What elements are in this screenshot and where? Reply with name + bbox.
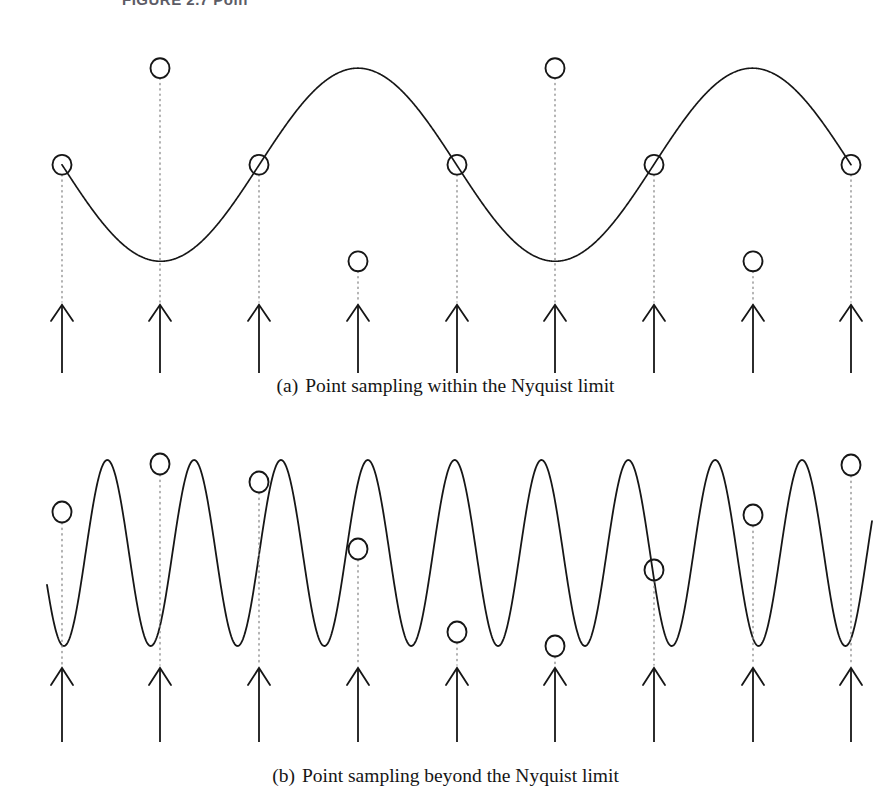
sampling-impulse-arrow xyxy=(149,668,171,742)
panel-b-svg xyxy=(0,420,891,760)
panel-b-caption-tag: (b) xyxy=(272,765,295,786)
sample-point-marker xyxy=(250,155,269,175)
sample-point-marker xyxy=(151,58,170,78)
sample-point-marker xyxy=(53,502,72,523)
sample-point-marker xyxy=(250,472,269,493)
sample-point-marker xyxy=(349,251,368,271)
panel-b-caption-text: Point sampling beyond the Nyquist limit xyxy=(302,765,619,786)
panel-a-svg xyxy=(0,18,891,373)
panel-a-caption-text: Point sampling within the Nyquist limit xyxy=(305,375,614,396)
panel-a-within-nyquist: (a)Point sampling within the Nyquist lim… xyxy=(0,18,891,393)
clipped-figure-header-text: FIGURE 2.7 Poin xyxy=(122,0,248,8)
panel-a-caption: (a)Point sampling within the Nyquist lim… xyxy=(0,375,891,397)
sample-point-marker xyxy=(546,58,565,78)
sampling-impulse-arrow xyxy=(742,305,764,373)
sampling-impulse-arrow xyxy=(347,305,369,373)
panel-a-plot xyxy=(0,18,891,373)
waveform-curve xyxy=(47,460,872,646)
sample-point-marker xyxy=(842,455,861,476)
sampling-impulse-arrow xyxy=(149,305,171,373)
sampling-impulse-arrow xyxy=(446,305,468,373)
sampling-impulse-arrow xyxy=(248,668,270,742)
sampling-impulse-arrow xyxy=(347,668,369,742)
sample-point-marker xyxy=(744,251,763,271)
sampling-impulse-arrow xyxy=(248,305,270,373)
panel-b-beyond-nyquist: (b)Point sampling beyond the Nyquist lim… xyxy=(0,420,891,800)
sample-point-marker xyxy=(842,155,861,175)
sample-point-marker xyxy=(448,155,467,175)
panel-a-caption-tag: (a) xyxy=(277,375,299,396)
sample-point-marker xyxy=(349,539,368,560)
sample-point-marker xyxy=(645,560,664,581)
sampling-impulse-arrow xyxy=(544,305,566,373)
sampling-impulse-arrow xyxy=(643,668,665,742)
panel-b-plot xyxy=(0,420,891,760)
sampling-impulse-arrow xyxy=(544,668,566,742)
sample-point-marker xyxy=(744,505,763,526)
sample-point-marker xyxy=(645,155,664,175)
sampling-impulse-arrow xyxy=(643,305,665,373)
sampling-impulse-arrow xyxy=(742,668,764,742)
figure-nyquist-sampling: FIGURE 2.7 Poin (a)Point sampling within… xyxy=(0,0,891,808)
clipped-figure-header: FIGURE 2.7 Poin xyxy=(0,0,891,9)
sampling-impulse-arrow xyxy=(840,668,862,742)
sampling-impulse-arrow xyxy=(51,668,73,742)
sample-point-marker xyxy=(448,622,467,643)
sample-point-marker xyxy=(546,636,565,657)
sampling-impulse-arrow xyxy=(446,668,468,742)
panel-b-caption: (b)Point sampling beyond the Nyquist lim… xyxy=(0,765,891,787)
sample-point-marker xyxy=(53,155,72,175)
sampling-impulse-arrow xyxy=(51,305,73,373)
sample-point-marker xyxy=(151,454,170,475)
sampling-impulse-arrow xyxy=(840,305,862,373)
